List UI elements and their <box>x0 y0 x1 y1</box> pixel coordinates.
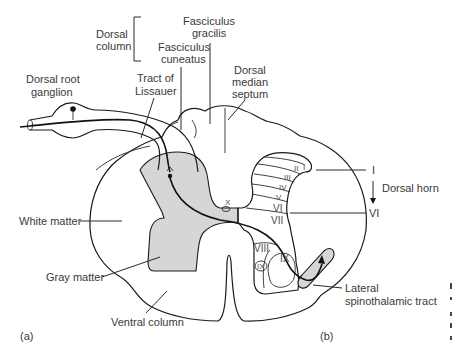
label-range-lamina-vi: VI <box>369 207 379 219</box>
label-dorsal-root-ganglion-2: ganglion <box>31 86 73 98</box>
dorsal-column-bracket <box>134 17 141 61</box>
label-white-matter: White matter <box>19 215 82 227</box>
lateral-spinothalamic-tract <box>298 249 334 289</box>
lamina-line-1 <box>264 157 305 165</box>
label-lateral-spinothalamic-2: spinothalamic tract <box>345 295 437 307</box>
lamina-label-ii: II <box>294 164 298 173</box>
lamina-label-ix: IX <box>280 253 290 264</box>
label-gray-matter: Gray matter <box>46 271 104 283</box>
label-dorsal-median-septum-3: septum <box>232 88 268 100</box>
panel-label-a: (a) <box>20 330 33 342</box>
lamina-label-i: I <box>303 163 305 172</box>
label-dorsal-column-2: column <box>96 40 131 52</box>
label-fasciculus-gracilis-1: Fasciculus <box>183 15 235 27</box>
label-dorsal-root-ganglion-1: Dorsal root <box>26 73 80 85</box>
panel-label-b: (b) <box>320 330 333 342</box>
leader-lateral-spinothalamic <box>313 285 342 288</box>
label-dorsal-median-septum-2: median <box>232 76 268 88</box>
lamina-label-ix-small: IX <box>257 262 265 271</box>
fasciculus-gracilis-lobe <box>192 120 196 138</box>
lamina-label-vii: VII <box>271 215 283 226</box>
lamina-label-vi: VI <box>273 203 282 214</box>
label-fasciculus-cuneatus-2: cuneatus <box>161 53 206 65</box>
label-dorsal-column-1: Dorsal <box>96 28 128 40</box>
label-dorsal-median-septum-1: Dorsal <box>234 64 266 76</box>
label-dorsal-horn: Dorsal horn <box>382 182 439 194</box>
dorsal-horn-arrowhead <box>370 198 376 204</box>
label-fasciculus-gracilis-2: gracilis <box>192 27 227 39</box>
lamina-line-5 <box>252 194 288 202</box>
label-range-lamina-i: I <box>372 164 375 176</box>
lamina-label-v: V <box>276 193 282 202</box>
dorsal-root-end-cap <box>28 120 33 130</box>
lamina-label-iii: III <box>284 173 291 182</box>
label-fasciculus-cuneatus-1: Fasciculus <box>158 41 210 53</box>
label-lateral-spinothalamic-1: Lateral <box>345 282 379 294</box>
label-ventral-column: Ventral column <box>111 316 184 328</box>
label-tract-of-lissauer-1: Tract of <box>137 72 175 84</box>
label-tract-of-lissauer-2: Lissauer <box>135 85 177 97</box>
lamina-label-x: X <box>225 198 231 207</box>
ganglion-cell-body <box>70 106 76 112</box>
lamina-label-iv: IV <box>279 183 287 192</box>
dorsal-root-axon-stub <box>20 126 30 127</box>
lamina-label-viii: VIII <box>254 243 269 254</box>
synapse-dot <box>168 174 172 178</box>
spinal-cord-diagram: Dorsal column Fasciculus gracilis Fascic… <box>0 0 452 361</box>
